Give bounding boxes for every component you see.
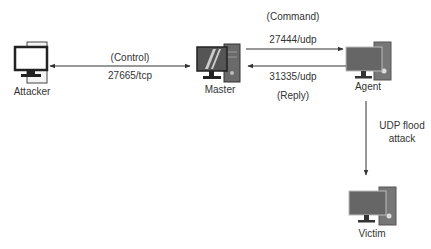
udp-flood-label-line1: UDP flood: [374, 120, 430, 131]
command-label: (Command): [258, 11, 328, 22]
agent-computer-icon: [346, 42, 391, 80]
diagram-canvas: [0, 0, 431, 249]
victim-computer-icon: [349, 187, 396, 225]
control-port-label: 27665/tcp: [100, 70, 160, 81]
reply-port-label: 31335/udp: [258, 71, 328, 82]
control-label: (Control): [100, 52, 160, 63]
agent-label: Agent: [348, 81, 388, 92]
attacker-computer-icon: [15, 42, 47, 83]
attacker-label: Attacker: [12, 86, 52, 97]
master-label: Master: [200, 84, 240, 95]
victim-label: Victim: [352, 228, 392, 239]
reply-label: (Reply): [258, 90, 328, 101]
command-port-label: 27444/udp: [258, 34, 328, 45]
udp-flood-label-line2: attack: [374, 133, 430, 144]
master-computer-icon: [197, 44, 240, 82]
